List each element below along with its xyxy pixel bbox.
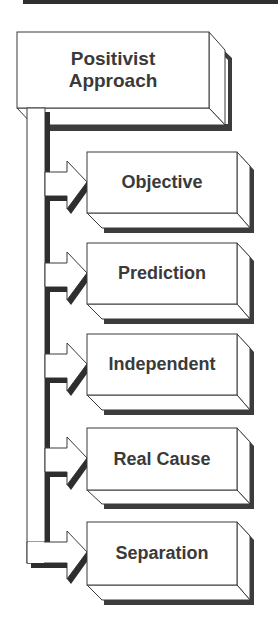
root-label-line2: Approach xyxy=(69,70,158,92)
node-label-real-cause: Real Cause xyxy=(87,428,237,490)
node-label-independent: Independent xyxy=(87,334,237,395)
root-label-line1: Positivist xyxy=(71,48,155,70)
header-bar xyxy=(23,0,278,4)
root-node-label: Positivist Approach xyxy=(17,32,209,108)
node-label-prediction: Prediction xyxy=(87,243,237,304)
node-label-objective: Objective xyxy=(87,152,237,213)
node-label-separation: Separation xyxy=(87,522,237,585)
